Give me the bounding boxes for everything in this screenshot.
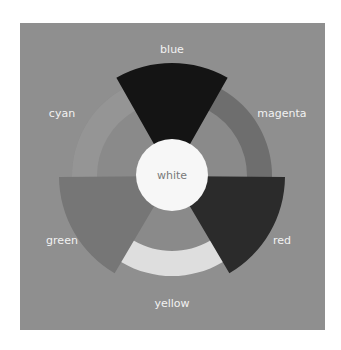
label-blue: blue (160, 43, 184, 56)
label-green: green (46, 234, 78, 247)
center-label: white (157, 169, 187, 182)
label-yellow: yellow (154, 297, 189, 310)
label-cyan: cyan (49, 107, 75, 120)
color-wheel: white bluemagentaredyellowgreencyan (0, 0, 341, 350)
label-magenta: magenta (257, 107, 306, 120)
label-red: red (273, 234, 291, 247)
